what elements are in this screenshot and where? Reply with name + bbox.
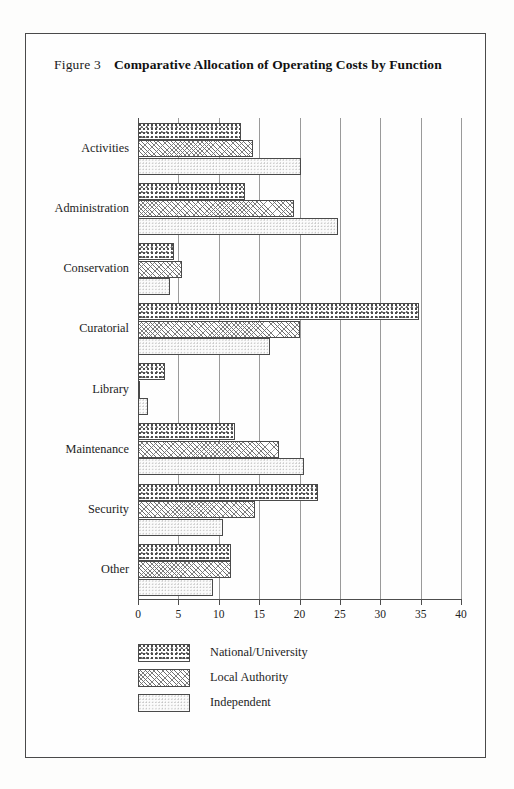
tick-40 bbox=[461, 599, 462, 605]
bar-curatorial-independent bbox=[138, 338, 270, 355]
bar-administration-national-university bbox=[138, 183, 245, 200]
bar-other-independent bbox=[138, 579, 213, 596]
legend-swatch-diagonal-hatch bbox=[138, 669, 190, 687]
legend-swatch-coarse-dots bbox=[138, 644, 190, 662]
bar-activities-independent bbox=[138, 158, 301, 175]
legend-item-national-university: National/University bbox=[138, 640, 308, 665]
category-label-curatorial: Curatorial bbox=[79, 321, 129, 336]
gridline-40 bbox=[461, 118, 462, 599]
legend-swatch-light-stipple bbox=[138, 694, 190, 712]
bar-maintenance-local-authority bbox=[138, 441, 279, 458]
bar-administration-independent bbox=[138, 218, 338, 235]
category-label-conservation: Conservation bbox=[63, 261, 129, 276]
tick-20 bbox=[300, 599, 301, 605]
bar-group-activities: Activities bbox=[138, 118, 461, 178]
tick-25 bbox=[340, 599, 341, 605]
tick-0 bbox=[138, 599, 139, 605]
bar-administration-local-authority bbox=[138, 200, 294, 217]
bar-library-independent bbox=[138, 398, 148, 415]
x-tick-label-15: 15 bbox=[253, 608, 265, 620]
bar-curatorial-local-authority bbox=[138, 321, 300, 338]
x-tick-label-0: 0 bbox=[135, 608, 141, 620]
category-label-security: Security bbox=[88, 501, 129, 516]
category-label-activities: Activities bbox=[81, 141, 129, 156]
bar-library-national-university bbox=[138, 363, 165, 380]
category-label-other: Other bbox=[101, 561, 129, 576]
tick-5 bbox=[178, 599, 179, 605]
bar-group-other: Other bbox=[138, 539, 461, 599]
bar-security-independent bbox=[138, 519, 223, 536]
bar-group-security: Security bbox=[138, 479, 461, 539]
figure-frame: Figure 3Comparative Allocation of Operat… bbox=[25, 33, 486, 758]
bar-conservation-independent bbox=[138, 278, 170, 295]
chart-plot-area: 0510152025303540 ActivitiesAdministratio… bbox=[138, 118, 462, 599]
bar-other-national-university bbox=[138, 544, 231, 561]
figure-number: Figure 3 bbox=[54, 57, 101, 72]
category-label-administration: Administration bbox=[55, 201, 129, 216]
bar-security-national-university bbox=[138, 484, 318, 501]
legend-item-local-authority: Local Authority bbox=[138, 665, 308, 690]
bar-group-library: Library bbox=[138, 359, 461, 419]
x-tick-label-20: 20 bbox=[294, 608, 306, 620]
bar-maintenance-independent bbox=[138, 458, 304, 475]
x-tick-label-40: 40 bbox=[455, 608, 467, 620]
tick-15 bbox=[259, 599, 260, 605]
category-label-library: Library bbox=[92, 381, 129, 396]
legend-label: Independent bbox=[210, 695, 271, 710]
bar-library-local-authority bbox=[138, 381, 140, 398]
x-tick-label-25: 25 bbox=[334, 608, 346, 620]
x-tick-label-10: 10 bbox=[213, 608, 225, 620]
bar-security-local-authority bbox=[138, 501, 255, 518]
bar-group-administration: Administration bbox=[138, 178, 461, 238]
bar-group-maintenance: Maintenance bbox=[138, 419, 461, 479]
chart-legend: National/UniversityLocal AuthorityIndepe… bbox=[138, 640, 308, 715]
bar-other-local-authority bbox=[138, 561, 231, 578]
tick-10 bbox=[219, 599, 220, 605]
legend-item-independent: Independent bbox=[138, 690, 308, 715]
tick-35 bbox=[421, 599, 422, 605]
bar-conservation-local-authority bbox=[138, 261, 182, 278]
legend-label: National/University bbox=[210, 645, 308, 660]
x-tick-label-30: 30 bbox=[375, 608, 387, 620]
bar-activities-local-authority bbox=[138, 140, 253, 157]
bar-maintenance-national-university bbox=[138, 423, 235, 440]
legend-label: Local Authority bbox=[210, 670, 288, 685]
bar-conservation-national-university bbox=[138, 243, 174, 260]
bar-group-curatorial: Curatorial bbox=[138, 298, 461, 358]
x-tick-label-5: 5 bbox=[176, 608, 182, 620]
category-label-maintenance: Maintenance bbox=[65, 441, 129, 456]
bar-activities-national-university bbox=[138, 123, 241, 140]
figure-page: Figure 3Comparative Allocation of Operat… bbox=[0, 0, 514, 789]
page-title: Comparative Allocation of Operating Cost… bbox=[114, 57, 442, 72]
x-tick-label-35: 35 bbox=[415, 608, 427, 620]
bar-curatorial-national-university bbox=[138, 303, 419, 320]
figure-title: Figure 3Comparative Allocation of Operat… bbox=[54, 55, 442, 73]
bar-group-conservation: Conservation bbox=[138, 238, 461, 298]
tick-30 bbox=[380, 599, 381, 605]
